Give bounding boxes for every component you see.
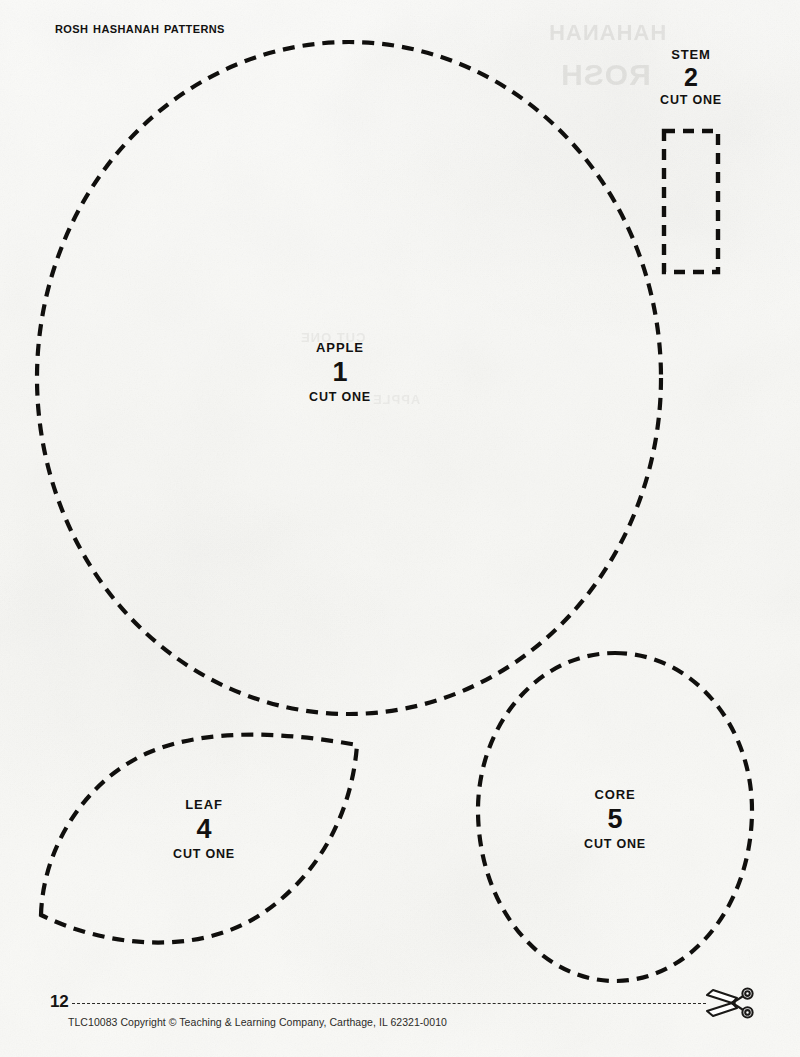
core-piece-number: 5 — [550, 806, 680, 833]
cut-along-dashed-line — [72, 1003, 706, 1004]
apple-piece-number: 1 — [265, 359, 415, 386]
core-cut-instruction: CUT ONE — [550, 838, 680, 851]
page-title: Rosh Hashanah Patterns — [55, 19, 225, 37]
leaf-cut-instruction: CUT ONE — [139, 848, 269, 861]
stem-piece-label: STEM 2 CUT ONE — [640, 48, 742, 107]
pattern-outlines — [0, 0, 800, 1057]
core-piece-name: CORE — [550, 788, 680, 801]
core-piece-label: CORE 5 CUT ONE — [550, 788, 680, 851]
copyright-notice: TLC10083 Copyright © Teaching & Learning… — [68, 1016, 447, 1028]
stem-pattern-outline[interactable] — [664, 131, 718, 272]
apple-piece-label: APPLE 1 CUT ONE — [265, 341, 415, 404]
leaf-piece-number: 4 — [139, 816, 269, 843]
leaf-piece-name: LEAF — [139, 798, 269, 811]
worksheet-page: HAHANAH ROSH CUT ONE APPLE Rosh Hashanah… — [0, 0, 800, 1057]
scissors-icon — [704, 979, 756, 1027]
apple-piece-name: APPLE — [265, 341, 415, 354]
page-number: 12 — [50, 992, 68, 1012]
stem-piece-number: 2 — [640, 65, 742, 90]
leaf-piece-label: LEAF 4 CUT ONE — [139, 798, 269, 861]
page-footer: 12 TLC10083 Copyright © Teaching & Lea — [0, 992, 800, 1057]
stem-piece-name: STEM — [640, 48, 742, 61]
stem-cut-instruction: CUT ONE — [640, 94, 742, 107]
apple-cut-instruction: CUT ONE — [265, 391, 415, 404]
